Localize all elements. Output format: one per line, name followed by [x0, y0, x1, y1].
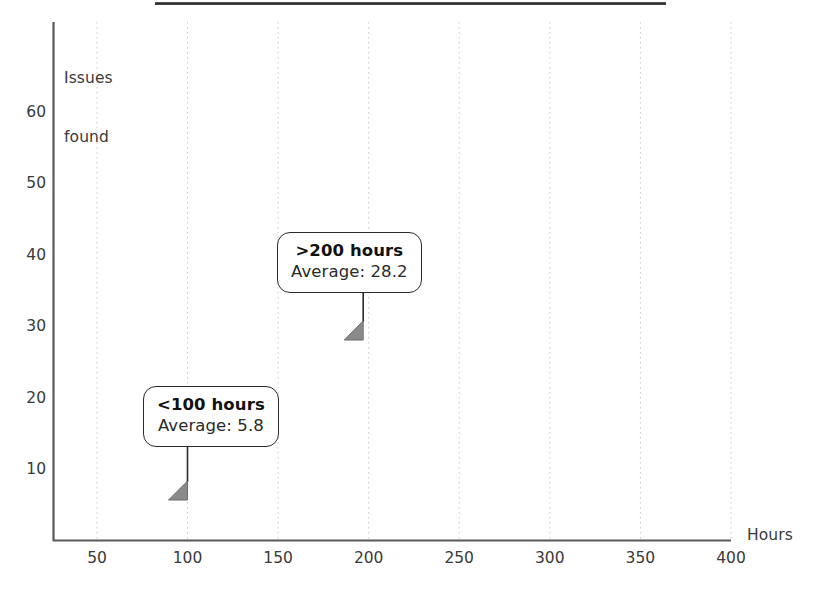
callout-low-title: <100 hours [157, 394, 265, 415]
x-tick-label-400: 400 [709, 549, 753, 567]
highlight-marker-high [344, 321, 363, 340]
callout-under-100-hours: <100 hours Average: 5.8 [143, 386, 279, 447]
callout-low-average: Average: 5.8 [157, 415, 265, 436]
y-tick-label-50: 50 [12, 174, 46, 192]
callout-high-average: Average: 28.2 [291, 261, 408, 282]
x-tick-label-50: 50 [75, 549, 119, 567]
x-tick-label-200: 200 [347, 549, 391, 567]
scatter-plot-canvas [0, 0, 821, 597]
highlight-marker-low [169, 481, 188, 500]
y-tick-label-10: 10 [12, 460, 46, 478]
callout-high-title: >200 hours [291, 240, 408, 261]
y-tick-label-20: 20 [12, 389, 46, 407]
x-tick-label-250: 250 [437, 549, 481, 567]
y-axis-title-line1: Issues [64, 69, 113, 89]
y-tick-label-40: 40 [12, 246, 46, 264]
x-tick-label-100: 100 [166, 549, 210, 567]
callout-over-200-hours: >200 hours Average: 28.2 [277, 232, 422, 293]
y-axis-title-line2: found [64, 128, 113, 148]
y-axis-title: Issues found [64, 30, 113, 186]
y-tick-label-30: 30 [12, 317, 46, 335]
x-tick-label-350: 350 [618, 549, 662, 567]
y-tick-label-60: 60 [12, 103, 46, 121]
x-tick-label-300: 300 [528, 549, 572, 567]
chart-figure: Issues found Hours 102030405060 50100150… [0, 0, 821, 597]
x-tick-label-150: 150 [256, 549, 300, 567]
x-axis-title: Hours [747, 526, 793, 546]
